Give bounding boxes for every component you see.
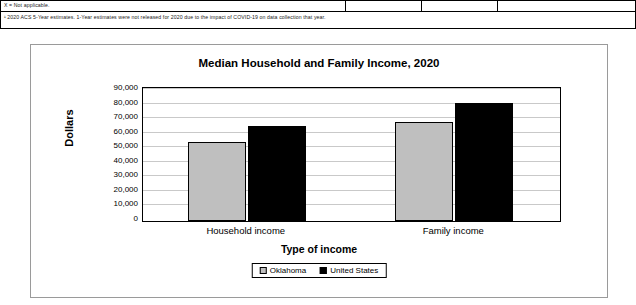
y-axis-tick-label: 10,000 [114, 199, 138, 208]
y-axis-tick-label: 90,000 [114, 83, 138, 92]
y-axis-tick-label: 30,000 [114, 170, 138, 179]
y-axis-tick-label: 50,000 [114, 141, 138, 150]
bar-united-states-household-income [248, 126, 306, 221]
table-rule-v3 [421, 0, 422, 11]
y-axis-title: Dollars [63, 88, 75, 168]
bar-oklahoma-household-income [188, 142, 246, 221]
note-not-applicable: X = Not applicable. [4, 2, 50, 8]
table-rule-mid [0, 11, 636, 12]
x-axis-category-label: Household income [176, 225, 316, 236]
legend-swatch-icon-united-states [320, 267, 327, 274]
legend-label-united-states: United States [330, 266, 378, 275]
legend-item-united-states: United States [320, 266, 378, 275]
bar-group [143, 88, 560, 221]
chart-title: Median Household and Family Income, 2020 [31, 57, 607, 69]
y-axis-tick-label: 20,000 [114, 184, 138, 193]
plot-area [142, 87, 561, 222]
x-axis-category-label: Family income [383, 225, 523, 236]
legend-item-oklahoma: Oklahoma [260, 266, 306, 275]
table-rule-bottom [0, 28, 636, 29]
legend-swatch-icon-oklahoma [260, 267, 267, 274]
y-axis-tick-label: 80,000 [114, 97, 138, 106]
note-footnote: ¹ 2020 ACS 5-Year estimates. 1-Year esti… [4, 14, 326, 20]
table-rule-top [0, 0, 636, 1]
bar-united-states-family-income [455, 103, 513, 221]
screenshot-page: X = Not applicable. ¹ 2020 ACS 5-Year es… [0, 0, 636, 305]
y-axis-tick-label: 0 [134, 214, 138, 223]
chart-container: Median Household and Family Income, 2020… [30, 44, 608, 298]
table-rule-v4 [497, 0, 498, 11]
x-axis-title: Type of income [31, 243, 607, 255]
y-axis-tick-label: 40,000 [114, 155, 138, 164]
y-axis-tick-label: 70,000 [114, 112, 138, 121]
y-axis-tick-label: 60,000 [114, 126, 138, 135]
chart-legend: Oklahoma United States [252, 263, 387, 278]
table-rule-v1 [0, 0, 1, 28]
legend-label-oklahoma: Oklahoma [270, 266, 306, 275]
bar-oklahoma-family-income [395, 122, 453, 221]
table-rule-v2 [345, 0, 346, 11]
y-axis-tick-labels: 010,00020,00030,00040,00050,00060,00070,… [86, 81, 138, 226]
